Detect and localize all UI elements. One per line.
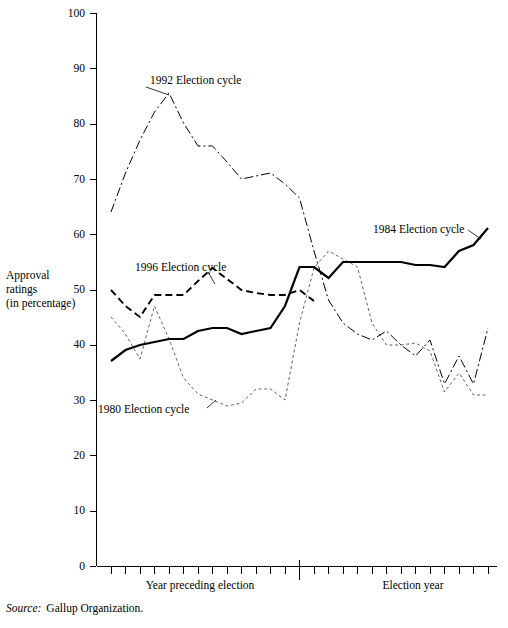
annotation-leaders-group — [146, 87, 481, 408]
y-axis-title-line-1: Approval — [6, 269, 49, 282]
leader-line-1984 — [468, 230, 481, 239]
x-axis-captions-group: Year preceding election Election year — [146, 579, 444, 592]
axes-group — [97, 13, 498, 567]
source-label: Source: — [6, 602, 41, 614]
y-tick-label-30: 30 — [74, 394, 86, 406]
y-tick-label-60: 60 — [74, 228, 86, 240]
x-region-label-election-year: Election year — [383, 579, 444, 592]
y-tick-label-80: 80 — [74, 117, 86, 129]
annotation-label-1980: 1980 Election cycle — [98, 403, 189, 416]
y-tick-label-40: 40 — [74, 338, 86, 350]
x-region-label-year-preceding-election: Year preceding election — [146, 579, 255, 592]
y-tick-label-70: 70 — [74, 173, 86, 185]
series-group — [111, 93, 488, 406]
source-note: Source:Gallup Organization. — [6, 602, 143, 614]
y-tick-label-50: 50 — [74, 283, 86, 295]
chart-figure: 100 90 80 70 60 50 40 30 20 10 0 — [0, 0, 508, 628]
leader-line-1980 — [207, 400, 216, 408]
x-ticks-group — [111, 560, 488, 580]
approval-ratings-line-chart: 100 90 80 70 60 50 40 30 20 10 0 — [0, 0, 508, 628]
annotation-label-1984: 1984 Election cycle — [373, 223, 464, 236]
y-tick-label-0: 0 — [79, 560, 85, 572]
y-ticks-group: 100 90 80 70 60 50 40 30 20 10 0 — [68, 7, 96, 572]
y-axis-title-line-3: (in percentage) — [6, 297, 75, 310]
y-tick-label-100: 100 — [68, 7, 86, 19]
y-tick-label-90: 90 — [74, 62, 86, 74]
y-tick-label-20: 20 — [74, 449, 86, 461]
series-line-1980-election-cycle — [111, 251, 488, 406]
leader-line-1996 — [208, 272, 215, 284]
leader-line-1992 — [146, 87, 169, 95]
annotation-label-1996: 1996 Election cycle — [135, 261, 226, 274]
y-tick-label-10: 10 — [74, 504, 86, 516]
y-axis-title-line-2: ratings — [6, 283, 38, 296]
annotation-labels-group: 1992 Election cycle 1996 Election cycle … — [98, 74, 464, 416]
annotation-label-1992: 1992 Election cycle — [150, 74, 241, 87]
source-text: Gallup Organization. — [46, 602, 143, 614]
y-axis-title-group: Approval ratings (in percentage) — [6, 269, 75, 310]
